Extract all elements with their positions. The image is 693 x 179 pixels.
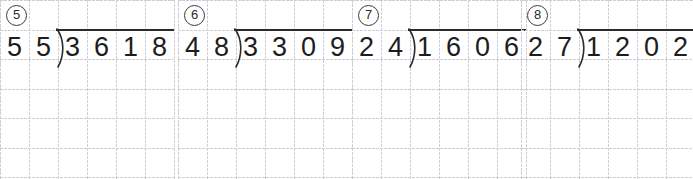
problem-index-badge: 7 — [358, 5, 379, 26]
division-problem-6: 6483309 — [178, 0, 352, 179]
grid-line-horizontal — [178, 177, 352, 178]
grid-line-horizontal — [521, 89, 693, 90]
division-problem-8: 8271202 — [521, 0, 693, 179]
grid-line-horizontal — [0, 148, 174, 149]
divisor-digit: 2 — [521, 30, 550, 64]
dividend-digit: 6 — [439, 30, 468, 64]
grid-line-horizontal — [521, 148, 693, 149]
grid-line-horizontal — [0, 0, 174, 1]
divisor-digit: 2 — [352, 30, 381, 64]
dividend-digit: 9 — [323, 30, 352, 64]
divisor-digit: 8 — [207, 30, 236, 64]
grid-line-horizontal — [0, 89, 174, 90]
division-problem-5: 5553618 — [0, 0, 174, 179]
dividend-digit: 1 — [116, 30, 145, 64]
grid-line-horizontal — [521, 118, 693, 119]
division-problem-7: 7241606 — [352, 0, 526, 179]
dividend-digit: 2 — [608, 30, 637, 64]
grid-line-horizontal — [352, 89, 526, 90]
grid-line-horizontal — [178, 118, 352, 119]
grid-line-horizontal — [178, 0, 352, 1]
grid-line-horizontal — [0, 177, 174, 178]
dividend-digit: 6 — [87, 30, 116, 64]
grid-line-horizontal — [352, 148, 526, 149]
dividend-digit: 3 — [58, 30, 87, 64]
problem-index-badge: 5 — [6, 5, 27, 26]
grid-line-horizontal — [352, 177, 526, 178]
grid-line-horizontal — [178, 148, 352, 149]
divisor-digit: 7 — [550, 30, 579, 64]
grid-line-horizontal — [352, 0, 526, 1]
grid-line-horizontal — [0, 118, 174, 119]
dividend-digit: 1 — [579, 30, 608, 64]
grid-line-horizontal — [352, 118, 526, 119]
divisor-digit: 4 — [381, 30, 410, 64]
grid-line-horizontal — [521, 177, 693, 178]
divisor-digit: 5 — [0, 30, 29, 64]
dividend-digit: 0 — [294, 30, 323, 64]
problem-index-badge: 6 — [184, 5, 205, 26]
dividend-digit: 8 — [145, 30, 174, 64]
division-vinculum-bar — [56, 29, 174, 31]
division-worksheet: 5553618648330972416068271202 — [0, 0, 693, 179]
grid-line-vertical — [174, 0, 175, 179]
dividend-digit: 1 — [410, 30, 439, 64]
grid-line-horizontal — [178, 89, 352, 90]
dividend-digit: 0 — [637, 30, 666, 64]
dividend-digit: 0 — [468, 30, 497, 64]
dividend-digit: 2 — [666, 30, 693, 64]
divisor-digit: 4 — [178, 30, 207, 64]
problem-index-badge: 8 — [527, 5, 548, 26]
division-vinculum-bar — [234, 29, 352, 31]
division-vinculum-bar — [577, 29, 693, 31]
dividend-digit: 3 — [265, 30, 294, 64]
division-vinculum-bar — [408, 29, 526, 31]
dividend-digit: 3 — [236, 30, 265, 64]
divisor-digit: 5 — [29, 30, 58, 64]
grid-line-horizontal — [521, 0, 693, 1]
